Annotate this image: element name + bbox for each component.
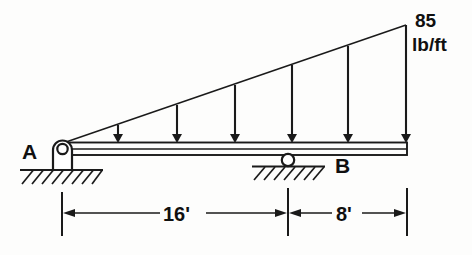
load-units-label: lb/ft bbox=[412, 34, 447, 55]
beam-member bbox=[64, 143, 407, 156]
dim-arrow-left bbox=[63, 209, 75, 217]
dimension-16ft-label: 16' bbox=[163, 203, 190, 225]
downward-load-arrow-icon bbox=[172, 105, 182, 143]
downward-load-arrow-icon bbox=[230, 85, 240, 143]
beam-diagram-figure: A B 85 lb/ft 16' 8' bbox=[0, 0, 472, 255]
downward-load-arrow-icon bbox=[287, 65, 297, 143]
load-magnitude-label: 85 bbox=[415, 10, 437, 31]
roller-circle bbox=[282, 154, 294, 166]
downward-load-arrow-icon bbox=[343, 46, 353, 143]
dimension-chain bbox=[62, 188, 407, 236]
downward-load-arrow-icon bbox=[113, 125, 123, 143]
pin-support-icon bbox=[53, 141, 72, 171]
dim-arrow-right bbox=[394, 209, 406, 217]
beam-diagram-canvas: A B 85 lb/ft 16' 8' bbox=[0, 0, 472, 255]
dim-arrow-right bbox=[275, 209, 287, 217]
dim-arrow-left bbox=[289, 209, 301, 217]
pin-hole bbox=[57, 144, 67, 154]
load-arrow-group bbox=[113, 46, 411, 143]
support-b-label: B bbox=[335, 154, 350, 177]
dimension-8ft-label: 8' bbox=[336, 203, 352, 225]
roller-support-icon bbox=[252, 154, 325, 180]
ground-hatch-icon bbox=[20, 170, 103, 184]
support-a-label: A bbox=[22, 140, 37, 163]
